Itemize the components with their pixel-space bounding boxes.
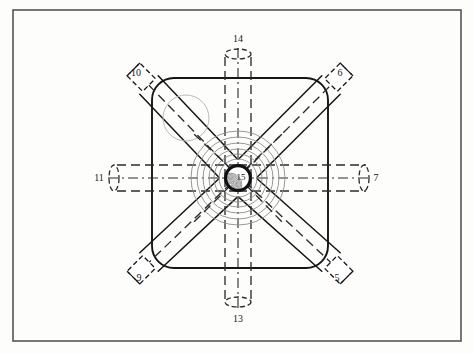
ref-label-9: 9 xyxy=(137,272,142,283)
hub-reference-label: 15 xyxy=(237,172,247,182)
ref-label-13: 13 xyxy=(233,313,243,324)
ref-label-10: 10 xyxy=(131,67,141,78)
ref-label-6: 6 xyxy=(338,67,343,78)
ref-label-14: 14 xyxy=(233,33,243,44)
technical-drawing-figure: 15 610957111413 xyxy=(0,0,473,353)
ref-label-11: 11 xyxy=(94,172,104,183)
ref-label-5: 5 xyxy=(335,272,340,283)
figure-canvas: 15 610957111413 xyxy=(0,0,473,353)
ref-label-7: 7 xyxy=(374,172,379,183)
